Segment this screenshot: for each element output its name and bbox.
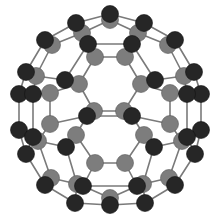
carbon-atom-front	[102, 197, 119, 214]
carbon-atom-front	[18, 64, 35, 81]
carbon-atom-back	[42, 85, 59, 102]
front-atom-layer	[11, 6, 210, 214]
carbon-atom-front	[124, 36, 141, 53]
carbon-atom-front	[187, 146, 204, 163]
carbon-atom-back	[42, 116, 59, 133]
carbon-atom-front	[136, 15, 153, 32]
c60-molecule-diagram	[0, 0, 215, 219]
carbon-atom-front	[68, 15, 85, 32]
carbon-atom-front	[58, 139, 75, 156]
carbon-atom-front	[179, 129, 196, 146]
carbon-atom-front	[146, 139, 163, 156]
carbon-atom-front	[67, 195, 84, 212]
carbon-atom-front	[57, 72, 74, 89]
carbon-atom-back	[162, 85, 179, 102]
carbon-atom-front	[186, 64, 203, 81]
carbon-atom-front	[37, 32, 54, 49]
carbon-atom-front	[102, 6, 119, 23]
carbon-atom-front	[18, 146, 35, 163]
carbon-atom-back	[117, 155, 134, 172]
carbon-atom-front	[79, 108, 96, 125]
carbon-atom-front	[80, 36, 97, 53]
carbon-atom-front	[37, 177, 54, 194]
carbon-atom-front	[129, 178, 146, 195]
carbon-atom-front	[179, 86, 196, 103]
carbon-atom-front	[167, 177, 184, 194]
carbon-atom-front	[25, 86, 42, 103]
carbon-atom-back	[162, 116, 179, 133]
carbon-atom-front	[137, 195, 154, 212]
carbon-atom-front	[147, 72, 164, 89]
fullerene-figure	[0, 0, 215, 219]
carbon-atom-front	[25, 129, 42, 146]
carbon-atom-front	[124, 108, 141, 125]
carbon-atom-front	[167, 32, 184, 49]
carbon-atom-back	[87, 155, 104, 172]
carbon-atom-front	[75, 178, 92, 195]
